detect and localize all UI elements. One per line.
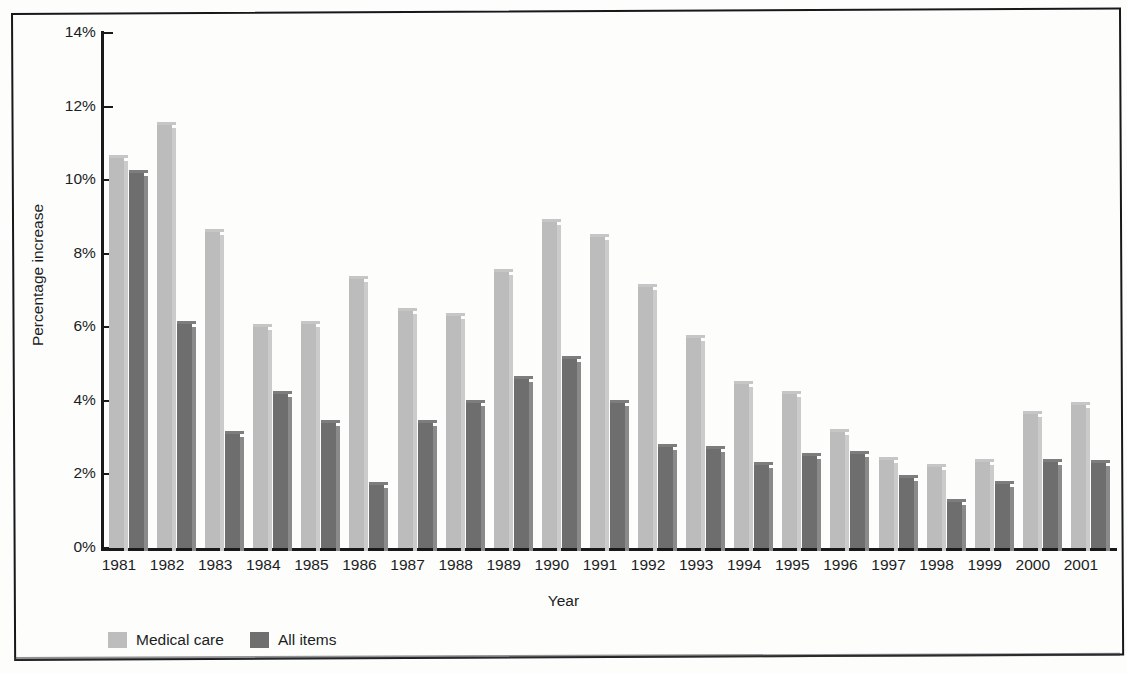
y-tick-label: 2% <box>40 464 96 482</box>
bar-medical-care <box>1071 405 1086 548</box>
bar-face <box>349 279 364 548</box>
bar-side <box>172 128 176 551</box>
bar-face <box>610 403 625 548</box>
bar-face <box>1023 414 1038 548</box>
bar-medical-care <box>590 237 605 548</box>
bar-face <box>927 467 942 548</box>
bar-medical-care <box>542 222 557 548</box>
bar-face <box>177 324 192 548</box>
bar-all-items <box>1043 462 1058 548</box>
bar-group <box>686 33 728 548</box>
bar-side <box>914 481 918 551</box>
x-tick-label: 1986 <box>332 556 386 574</box>
bar-side <box>1058 465 1062 551</box>
bar-face <box>1091 463 1106 548</box>
chart-legend: Medical careAll items <box>108 631 336 649</box>
bar-side <box>845 435 849 551</box>
plot-area <box>103 33 1113 548</box>
bar-face <box>398 311 413 548</box>
bar-group <box>975 33 1017 548</box>
bar-side <box>268 330 272 551</box>
bar-medical-care <box>1023 414 1038 548</box>
bar-side <box>384 488 388 551</box>
y-axis-tick-labels: 14%12%10%8%6%4%2%0% <box>0 0 96 673</box>
bar-group <box>1071 33 1113 548</box>
y-tick-label: 0% <box>40 538 96 556</box>
bar-all-items <box>273 394 288 549</box>
chart-figure: 14%12%10%8%6%4%2%0% Percentage increase … <box>0 0 1127 673</box>
x-tick-label: 1989 <box>477 556 531 574</box>
x-tick-label: 1982 <box>140 556 194 574</box>
bar-side <box>797 397 801 552</box>
bar-medical-care <box>398 311 413 548</box>
x-tick-label: 1984 <box>236 556 290 574</box>
bar-side <box>605 240 609 551</box>
y-axis-title: Percentage increase <box>29 175 47 375</box>
bar-side <box>673 450 677 551</box>
bar-group <box>638 33 680 548</box>
bar-side <box>865 457 869 551</box>
bar-side <box>433 426 437 551</box>
bar-face <box>975 462 990 548</box>
bar-medical-care <box>782 394 797 549</box>
bar-side <box>990 465 994 551</box>
legend-swatch <box>250 632 269 648</box>
bar-all-items <box>225 434 240 548</box>
y-tick-label: 14% <box>40 23 96 41</box>
bar-face <box>321 423 336 548</box>
bar-face <box>418 423 433 548</box>
x-tick-label: 1993 <box>669 556 723 574</box>
bar-all-items <box>706 449 721 548</box>
bar-group <box>301 33 343 548</box>
bar-face <box>754 465 769 548</box>
x-tick-label: 1995 <box>765 556 819 574</box>
bar-group <box>830 33 872 548</box>
x-tick-label: 1988 <box>429 556 483 574</box>
bar-side <box>625 406 629 551</box>
bar-all-items <box>610 403 625 548</box>
bar-side <box>461 319 465 551</box>
bar-group <box>927 33 969 548</box>
bar-all-items <box>850 454 865 548</box>
bar-side <box>557 225 561 551</box>
bar-all-items <box>177 324 192 548</box>
y-tick-label: 4% <box>40 391 96 409</box>
bar-all-items <box>129 173 144 548</box>
bar-face <box>253 327 268 548</box>
bar-face <box>1043 462 1058 548</box>
bar-side <box>701 341 705 551</box>
bar-face <box>899 478 914 548</box>
bar-group <box>109 33 151 548</box>
bar-group <box>734 33 776 548</box>
legend-item-all-items: All items <box>250 631 337 649</box>
bar-medical-care <box>446 316 461 548</box>
bar-side <box>192 327 196 551</box>
bar-all-items <box>899 478 914 548</box>
bar-side <box>1038 417 1042 551</box>
x-tick-label: 1997 <box>862 556 916 574</box>
bar-side <box>1106 466 1110 551</box>
bar-face <box>879 460 894 548</box>
bar-group <box>205 33 247 548</box>
bar-group <box>590 33 632 548</box>
bar-group <box>349 33 391 548</box>
x-tick-label: 1992 <box>621 556 675 574</box>
bar-medical-care <box>205 232 220 548</box>
bar-medical-care <box>494 272 509 548</box>
bar-face <box>205 232 220 548</box>
bar-medical-care <box>301 324 316 548</box>
bar-medical-care <box>253 327 268 548</box>
bar-face <box>590 237 605 548</box>
bar-all-items <box>802 456 817 548</box>
bar-medical-care <box>734 384 749 548</box>
bar-medical-care <box>157 125 172 548</box>
x-tick-label: 2001 <box>1054 556 1108 574</box>
bar-side <box>962 505 966 551</box>
bar-all-items <box>947 502 962 548</box>
bar-medical-care <box>638 287 653 548</box>
bar-side <box>509 275 513 551</box>
x-tick-label: 1987 <box>381 556 435 574</box>
bar-face <box>129 173 144 548</box>
bar-all-items <box>562 359 577 548</box>
bar-all-items <box>418 423 433 548</box>
